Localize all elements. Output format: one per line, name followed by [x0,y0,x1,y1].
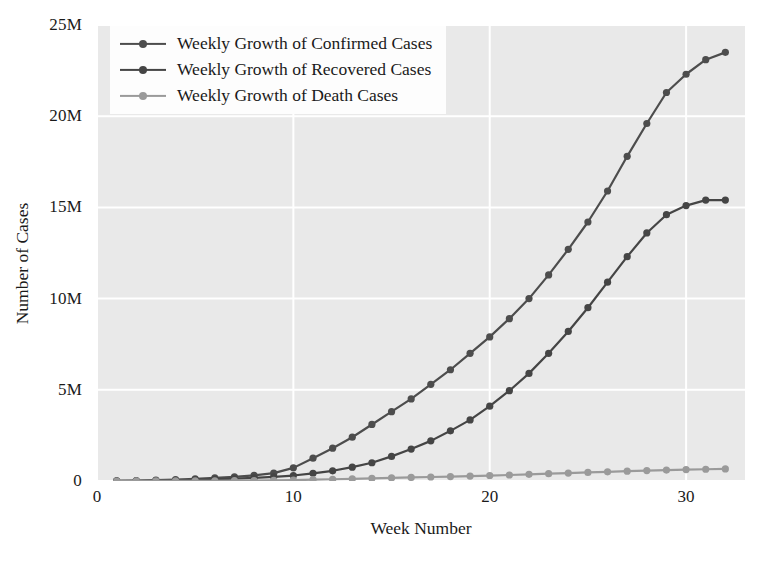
y-tick-label: 10M [49,289,82,309]
legend-label: Weekly Growth of Recovered Cases [177,61,431,79]
legend-item[interactable]: Weekly Growth of Confirmed Cases [120,33,432,54]
y-tick-label: 15M [49,197,82,217]
y-axis-tick-labels: 05M10M15M20M25M [0,25,90,481]
y-tick-label: 5M [58,380,82,400]
legend-item[interactable]: Weekly Growth of Death Cases [120,85,432,106]
y-tick-label: 25M [49,15,82,35]
legend-marker-icon [120,37,166,51]
x-tick-label: 0 [93,487,102,507]
legend-label: Weekly Growth of Confirmed Cases [177,35,432,53]
chart-figure: Number of Cases 05M10M15M20M25M 0102030 … [0,0,782,578]
series-1 [113,197,729,482]
chart-legend: Weekly Growth of Confirmed CasesWeekly G… [110,26,446,114]
legend-marker-icon [120,89,166,103]
legend-label: Weekly Growth of Death Cases [177,87,398,105]
x-axis-tick-labels: 0102030 [97,487,745,513]
x-axis-title: Week Number [97,518,745,539]
x-tick-label: 20 [481,487,498,507]
x-tick-label: 10 [285,487,302,507]
y-tick-label: 20M [49,106,82,126]
legend-marker-icon [120,63,166,77]
x-tick-label: 30 [678,487,695,507]
legend-item[interactable]: Weekly Growth of Recovered Cases [120,59,432,80]
y-tick-label: 0 [73,471,82,491]
